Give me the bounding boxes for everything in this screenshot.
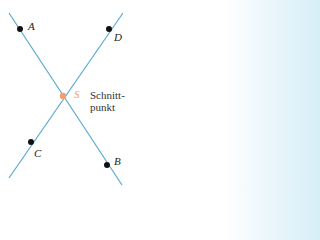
caption-line-1: Schnitt- xyxy=(90,89,125,101)
point-b xyxy=(104,162,110,168)
label-c: C xyxy=(34,148,41,159)
caption-line-2: punkt xyxy=(90,101,125,113)
point-s xyxy=(60,93,66,99)
point-c xyxy=(28,139,34,145)
label-s: S xyxy=(74,89,80,100)
point-a xyxy=(17,26,23,32)
intersection-caption: Schnitt- punkt xyxy=(90,89,125,113)
label-d: D xyxy=(114,32,122,43)
label-a: A xyxy=(28,21,35,32)
label-b: B xyxy=(114,156,121,167)
point-d xyxy=(106,26,112,32)
